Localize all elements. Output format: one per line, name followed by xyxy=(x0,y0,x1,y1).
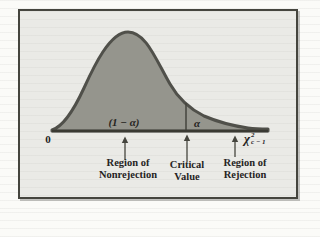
rejection-caption-line2: Rejection xyxy=(210,169,280,181)
rejection-arrow xyxy=(232,136,238,158)
chi-square-curve xyxy=(52,32,268,131)
critical-value-caption: Critical Value xyxy=(157,159,217,182)
rejection-caption: Region of Rejection xyxy=(210,157,280,180)
nonrejection-area-symbol: (1 − α) xyxy=(100,116,148,128)
alpha-symbol: α xyxy=(190,117,204,129)
chi-scripts: 2 c − 1 xyxy=(251,132,265,145)
critical-value-caption-line2: Value xyxy=(157,171,217,183)
chi-base: χ xyxy=(244,132,250,145)
critical-value-caption-line1: Critical xyxy=(157,159,217,171)
rejection-caption-line1: Region of xyxy=(210,157,280,169)
page: { "figure": { "description": "Chi-square… xyxy=(0,0,310,212)
chi-subscript: c − 1 xyxy=(251,139,265,146)
figure-frame: 0 (1 − α) α χ 2 c − 1 Region of Nonrejec… xyxy=(18,9,298,199)
critical-value-arrow xyxy=(184,135,190,163)
origin-label: 0 xyxy=(42,133,54,145)
chi-square-symbol: χ 2 c − 1 xyxy=(244,132,265,145)
